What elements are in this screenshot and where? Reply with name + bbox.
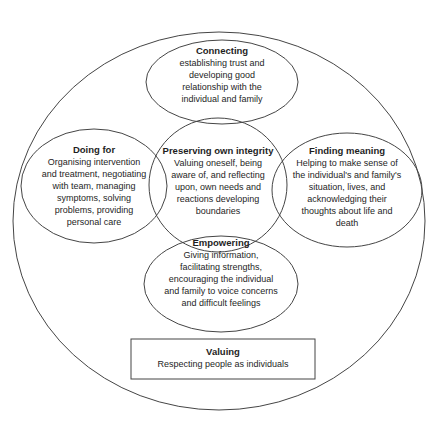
node-connecting-title: Connecting: [157, 45, 287, 57]
node-empowering-body: Giving information, facilitating strengt…: [144, 249, 298, 309]
node-preserving-own-integrity: Preserving own integrity Valuing oneself…: [146, 145, 290, 217]
node-finding-meaning-body: Helping to make sense of the individual'…: [274, 157, 420, 229]
node-connecting-body: establishing trust and developing good r…: [157, 57, 287, 105]
node-empowering: Empowering Giving information, facilitat…: [144, 237, 298, 309]
node-preserving-own-integrity-title: Preserving own integrity: [146, 145, 290, 157]
node-valuing-body: Respecting people as individuals: [131, 358, 315, 370]
node-preserving-own-integrity-body: Valuing oneself, being aware of, and ref…: [146, 157, 290, 217]
node-doing-for: Doing for Organising intervention and tr…: [24, 144, 164, 228]
node-finding-meaning-title: Finding meaning: [274, 145, 420, 157]
node-doing-for-body: Organising intervention and treatment, n…: [24, 156, 164, 228]
node-valuing-title: Valuing: [131, 346, 315, 358]
node-empowering-title: Empowering: [144, 237, 298, 249]
node-finding-meaning: Finding meaning Helping to make sense of…: [274, 145, 420, 229]
concept-diagram: Connecting establishing trust and develo…: [0, 0, 430, 423]
node-valuing: Valuing Respecting people as individuals: [131, 346, 315, 370]
node-doing-for-title: Doing for: [24, 144, 164, 156]
node-connecting: Connecting establishing trust and develo…: [157, 45, 287, 105]
